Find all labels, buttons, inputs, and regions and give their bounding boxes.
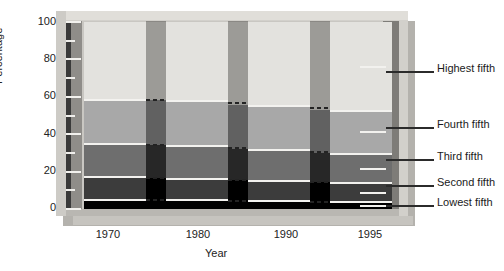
bar-segment-third-fifth[interactable] — [248, 149, 310, 180]
segment-divider — [330, 182, 392, 184]
bar-segment-third-fifth[interactable] — [84, 143, 146, 176]
segment-divider — [84, 199, 146, 201]
frame-bevel-top — [56, 11, 408, 20]
legend-label-third-fifth: Third fifth — [437, 150, 483, 162]
legend-label-lowest-fifth: Lowest fifth — [437, 196, 493, 208]
bar-segment-lowest-fifth[interactable] — [248, 200, 310, 209]
y-tick-major — [66, 208, 81, 210]
y-tick-label: 40 — [22, 128, 56, 139]
x-tick-label: 1990 — [256, 228, 316, 240]
segment-divider — [248, 149, 310, 151]
segment-connector-dashes — [228, 179, 248, 181]
x-tick-label: 1980 — [168, 228, 228, 240]
chart-figure: 100 80 60 40 20 0 Percentage 1970 1980 1… — [0, 0, 504, 271]
y-tick-major — [66, 96, 81, 98]
y-tick-label: 60 — [22, 90, 56, 101]
legend-leader-stub — [360, 205, 386, 207]
segment-divider — [166, 145, 228, 147]
bar-segment-highest-fifth[interactable] — [166, 22, 228, 100]
y-tick-label: 0 — [22, 202, 56, 213]
bar-segment-fourth-fifth[interactable] — [166, 100, 228, 145]
bar-segment-second-fifth[interactable] — [166, 178, 228, 200]
stacked-bar-1990[interactable] — [248, 21, 310, 209]
segment-divider — [248, 180, 310, 182]
legend-leader-line — [386, 159, 434, 161]
segment-connector-dashes — [146, 144, 166, 146]
bar-segment-third-fifth[interactable] — [166, 145, 228, 178]
gap-segment — [228, 100, 248, 150]
bar-segment-fourth-fifth[interactable] — [248, 105, 310, 150]
stacked-bar-1970[interactable] — [84, 21, 146, 209]
segment-divider — [84, 143, 146, 145]
y-tick-major — [66, 58, 81, 60]
bar-segment-second-fifth[interactable] — [84, 176, 146, 199]
segment-connector-dashes — [228, 200, 248, 202]
segment-divider — [330, 201, 392, 203]
y-axis: 100 80 60 40 20 0 Percentage — [0, 0, 56, 271]
gap-segment — [146, 99, 166, 145]
stacked-bar-1980[interactable] — [166, 21, 228, 209]
gap-segment — [146, 22, 166, 100]
segment-divider — [166, 178, 228, 180]
segment-divider — [166, 100, 228, 102]
segment-connector-dashes — [310, 181, 330, 183]
bar-gap-face — [228, 21, 248, 209]
legend-label-highest-fifth: Highest fifth — [437, 62, 495, 74]
bar-gap-face — [310, 21, 330, 209]
stacked-bar-1995[interactable] — [330, 21, 392, 209]
y-tick-label: 20 — [22, 165, 56, 176]
bar-segment-highest-fifth[interactable] — [84, 22, 146, 99]
segment-divider — [330, 153, 392, 155]
legend-leader-line — [386, 71, 434, 73]
y-tick-minor — [66, 77, 75, 79]
legend-label-fourth-fifth: Fourth fifth — [437, 118, 490, 130]
legend-label-second-fifth: Second fifth — [437, 176, 495, 188]
y-tick-minor — [66, 152, 75, 154]
x-axis-title: Year — [205, 247, 227, 259]
segment-divider — [166, 199, 228, 201]
bar-segment-highest-fifth[interactable] — [248, 22, 310, 105]
segment-connector-dashes — [146, 199, 166, 201]
segment-connector-dashes — [228, 102, 248, 104]
legend-leader-line — [386, 185, 434, 187]
plot-floor — [66, 209, 399, 216]
gap-segment — [228, 22, 248, 105]
segment-connector-dashes — [146, 177, 166, 179]
bar-segment-fourth-fifth[interactable] — [84, 99, 146, 144]
y-tick-minor — [66, 115, 75, 117]
gap-segment — [228, 145, 248, 180]
frame-bevel-left — [56, 11, 66, 216]
legend-leader-stub — [360, 168, 386, 170]
segment-connector-dashes — [228, 147, 248, 149]
legend-leader-line — [386, 127, 434, 129]
x-tick-label: 1995 — [340, 228, 400, 240]
bar-segment-second-fifth[interactable] — [248, 180, 310, 200]
gap-segment — [146, 143, 166, 178]
gap-segment — [310, 180, 330, 201]
segment-divider — [84, 176, 146, 178]
y-tick-label: 100 — [22, 16, 56, 27]
y-tick-major — [66, 171, 81, 173]
gap-segment — [310, 105, 330, 153]
segment-connector-dashes — [310, 107, 330, 109]
y-axis-title: Percentage — [0, 28, 4, 84]
legend-leader-stub — [360, 66, 386, 68]
y-tick-major — [66, 133, 81, 135]
bar-segment-lowest-fifth[interactable] — [84, 199, 146, 209]
plot-floor-front — [73, 216, 413, 225]
legend-leader-stub — [360, 131, 386, 133]
segment-connector-dashes — [310, 151, 330, 153]
y-tick-major — [66, 21, 81, 23]
legend-leader-line — [386, 205, 434, 207]
x-tick-label: 1970 — [78, 228, 138, 240]
legend-leader-stub — [360, 192, 386, 194]
segment-divider — [248, 105, 310, 107]
y-tick-label: 80 — [22, 53, 56, 64]
segment-connector-dashes — [146, 99, 166, 101]
segment-connector-dashes — [310, 201, 330, 203]
y-tick-minor — [66, 189, 75, 191]
bar-gap-face — [146, 21, 166, 209]
segment-divider — [330, 110, 392, 112]
bar-segment-lowest-fifth[interactable] — [166, 199, 228, 209]
gap-segment — [228, 178, 248, 201]
